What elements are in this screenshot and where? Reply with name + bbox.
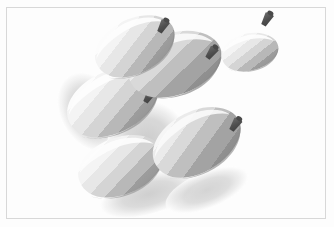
image-frame (6, 7, 326, 219)
stem-top-right (260, 9, 276, 28)
render-viewport: Toon-shaded gourd cluster render cel-sha… (0, 0, 334, 227)
gourd-top-right (218, 27, 283, 78)
scene-canvas (7, 8, 325, 218)
gourd-body (218, 27, 283, 77)
